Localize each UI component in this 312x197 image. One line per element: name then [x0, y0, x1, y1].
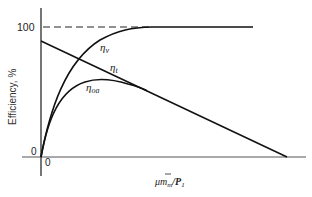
x-tick-0: 0 — [45, 157, 51, 168]
efficiency-chart: 100 0 0 Efficiency, % ηv ηt ηoa μmm/P1 — [0, 0, 312, 197]
y-axis-title: Efficiency, % — [7, 69, 18, 125]
x-axis-title: μmm/P1 — [154, 174, 185, 189]
y-tick-0: 0 — [31, 146, 37, 157]
svg-text:μmm/P1: μmm/P1 — [154, 176, 185, 189]
label-eta-t: ηt — [110, 61, 118, 75]
line-eta-t — [41, 41, 287, 157]
label-eta-oa: ηoa — [86, 81, 99, 95]
curve-eta-v — [41, 27, 253, 157]
label-eta-v: ηv — [100, 41, 109, 55]
y-tick-100: 100 — [17, 21, 35, 33]
